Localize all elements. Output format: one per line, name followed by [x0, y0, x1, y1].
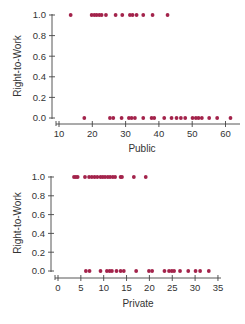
x-tick-label: 35 [213, 282, 224, 293]
data-point [179, 116, 183, 120]
y-tick-label: 0.2 [33, 92, 46, 103]
x-axis: 102030405060 [54, 121, 240, 139]
y-axis: 0.00.20.40.60.81.0 [32, 171, 54, 276]
x-tick-label: 30 [190, 282, 201, 293]
data-point [111, 116, 115, 120]
x-tick-label: 10 [98, 282, 109, 293]
data-point [69, 13, 73, 17]
x-tick-label: 5 [78, 282, 83, 293]
y-axis: 0.00.20.40.60.81.0 [33, 9, 55, 123]
data-point [110, 269, 114, 273]
data-point [120, 13, 124, 17]
data-point [162, 116, 166, 120]
data-point [131, 13, 135, 17]
data-point [200, 116, 204, 120]
y-tick-label: 0.8 [33, 30, 46, 41]
data-point [132, 175, 136, 179]
data-point [191, 116, 195, 120]
data-point [104, 13, 108, 17]
data-point [166, 13, 170, 17]
figure: 0.00.20.40.60.81.0 102030405060 Public R… [0, 0, 245, 324]
data-point [84, 269, 88, 273]
data-point [170, 116, 174, 120]
data-point [83, 175, 87, 179]
y-axis-label: Right-to-Work [12, 191, 23, 253]
y-tick-label: 0.0 [33, 112, 46, 123]
data-point [120, 175, 124, 179]
y-tick-label: 0.4 [32, 228, 45, 239]
data-point [163, 269, 167, 273]
x-tick-label: 0 [55, 282, 60, 293]
y-tick-label: 0.8 [32, 190, 45, 201]
data-point [135, 13, 139, 17]
data-point [215, 116, 219, 120]
data-point [88, 269, 92, 273]
x-axis-label: Public [128, 143, 155, 154]
data-point [178, 269, 182, 273]
data-point [186, 269, 190, 273]
data-point [100, 13, 104, 17]
data-point [207, 116, 211, 120]
data-point [113, 175, 117, 179]
data-point [141, 13, 145, 17]
data-point [115, 269, 119, 273]
data-point [134, 269, 138, 273]
y-tick-label: 1.0 [33, 9, 46, 20]
y-tick-label: 0.0 [32, 265, 45, 276]
data-point [144, 175, 148, 179]
data-point [207, 269, 211, 273]
data-point [151, 13, 155, 17]
data-point [175, 116, 179, 120]
data-point [141, 116, 145, 120]
data-point [130, 116, 134, 120]
y-tick-label: 0.4 [33, 71, 46, 82]
data-point [133, 116, 137, 120]
data-point [197, 116, 201, 120]
data-points [72, 175, 211, 273]
x-tick-label: 20 [144, 282, 155, 293]
data-point [114, 13, 118, 17]
data-point [229, 116, 233, 120]
data-point [99, 269, 103, 273]
data-point [194, 269, 198, 273]
x-tick-label: 30 [120, 128, 131, 139]
x-axis-label: Private [122, 298, 154, 309]
y-axis-label: Right-to-Work [12, 34, 23, 96]
data-point [172, 269, 176, 273]
x-tick-label: 50 [187, 128, 198, 139]
x-axis: 05101520253035 [55, 275, 223, 293]
x-tick-label: 40 [154, 128, 165, 139]
x-tick-label: 20 [87, 128, 98, 139]
y-tick-label: 0.6 [32, 209, 45, 220]
x-tick-label: 60 [220, 128, 231, 139]
data-point [198, 269, 202, 273]
scatter-chart-private: 0.00.20.40.60.81.0 05101520253035 Privat… [0, 162, 245, 324]
x-tick-label: 15 [121, 282, 132, 293]
x-tick-label: 25 [167, 282, 178, 293]
data-point [108, 116, 112, 120]
data-point [152, 116, 156, 120]
y-tick-label: 0.2 [32, 247, 45, 258]
scatter-chart-public: 0.00.20.40.60.81.0 102030405060 Public R… [0, 0, 245, 162]
data-points [69, 13, 233, 120]
data-point [76, 175, 80, 179]
y-tick-label: 1.0 [32, 171, 45, 182]
data-point [82, 116, 86, 120]
y-tick-label: 0.6 [33, 51, 46, 62]
data-point [120, 116, 124, 120]
data-point [183, 116, 187, 120]
data-point [150, 269, 154, 273]
data-point [122, 269, 126, 273]
x-tick-label: 10 [54, 128, 65, 139]
